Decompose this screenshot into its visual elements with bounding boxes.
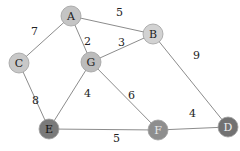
node-label: F xyxy=(154,124,162,137)
edge-weight-g-b: 3 xyxy=(118,36,125,49)
node-a: A xyxy=(61,6,81,26)
edge-f-d xyxy=(158,127,228,130)
edge-a-c xyxy=(19,16,71,63)
edge-weight-e-f: 5 xyxy=(113,132,120,145)
node-e: E xyxy=(39,119,59,139)
node-label: D xyxy=(224,121,233,134)
node-label: A xyxy=(66,10,76,23)
node-g: G xyxy=(81,52,101,72)
edges-layer xyxy=(19,16,228,130)
weighted-graph: 5723984654 ABCGEFD xyxy=(0,0,240,151)
edge-a-b xyxy=(71,16,153,34)
node-f: F xyxy=(148,120,168,140)
edge-e-f xyxy=(49,129,158,130)
edge-weight-a-g: 2 xyxy=(84,35,91,48)
node-b: B xyxy=(143,24,163,44)
node-label: B xyxy=(149,28,157,41)
edge-weight-b-d: 9 xyxy=(193,49,200,62)
edge-weight-g-e: 4 xyxy=(84,87,91,100)
edge-g-f xyxy=(91,62,158,130)
edge-weight-c-e: 8 xyxy=(32,94,39,107)
node-label: G xyxy=(87,56,96,69)
edge-weight-f-d: 4 xyxy=(189,107,196,120)
node-d: D xyxy=(218,117,238,137)
edge-weight-g-f: 6 xyxy=(128,89,135,102)
node-label: C xyxy=(15,57,23,70)
edge-weight-a-b: 5 xyxy=(116,6,123,19)
nodes-layer: ABCGEFD xyxy=(9,6,238,140)
node-c: C xyxy=(9,53,29,73)
node-label: E xyxy=(45,123,53,136)
edge-weight-a-c: 7 xyxy=(31,25,38,38)
